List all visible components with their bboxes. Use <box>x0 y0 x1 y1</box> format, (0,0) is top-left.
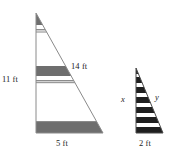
band-rule-top-2 <box>30 31 110 32</box>
small-triangle-group <box>132 68 172 133</box>
band-rule-middle <box>30 80 110 81</box>
stripe-dark-3 <box>132 87 172 93</box>
label-large-base: 5 ft <box>56 139 68 148</box>
stripe-dark-7 <box>132 127 172 133</box>
stripe-dark-4 <box>132 97 172 103</box>
label-small-hypotenuse: y <box>155 93 159 102</box>
stripe-dark-6 <box>132 117 172 123</box>
label-small-leg-left: x <box>121 95 125 104</box>
band-rule-bottom <box>30 121 110 122</box>
stripe-dark-5 <box>132 107 172 113</box>
large-triangle-group <box>30 13 110 133</box>
band-rule-middle-2 <box>30 82 110 83</box>
small-triangle-stripes <box>132 68 172 133</box>
label-small-base: 2 ft <box>139 139 151 148</box>
label-large-hypotenuse: 14 ft <box>71 62 87 71</box>
figure-canvas <box>0 0 177 155</box>
stripe-dark-2 <box>132 77 172 83</box>
band-rule-top <box>30 29 110 30</box>
geometry-figure: 11 ft 14 ft 5 ft x y 2 ft <box>0 0 177 155</box>
label-large-leg-left: 11 ft <box>2 75 18 84</box>
band-dark-bottom <box>30 121 110 133</box>
